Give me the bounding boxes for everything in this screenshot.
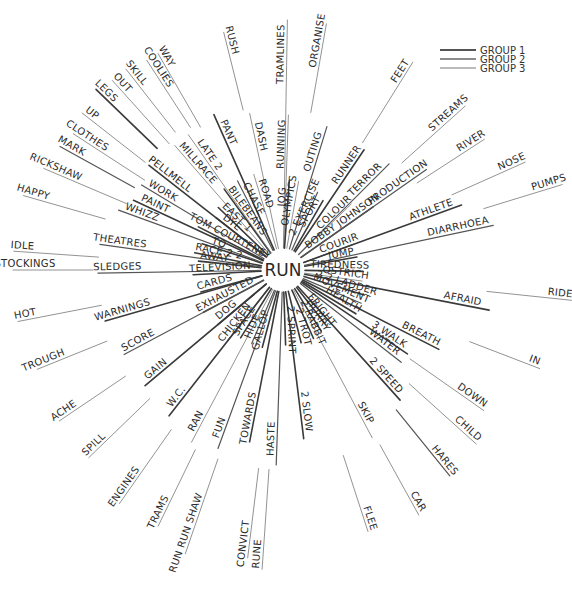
spoke-word: DASH <box>253 121 270 152</box>
spoke-word: DIARRHOEA <box>426 214 490 238</box>
spoke-line <box>343 456 368 532</box>
spoke-line <box>410 359 484 411</box>
spoke-word: STOCKINGS <box>0 258 56 269</box>
spoke-word: ENGINES <box>106 464 142 509</box>
spoke-word: FLEE <box>361 504 379 531</box>
spoke-word: RUN RUN SHAW <box>167 491 205 574</box>
spoke-line <box>396 410 450 476</box>
spoke-word: FEET <box>388 57 411 85</box>
spoke-line <box>44 168 127 203</box>
spoke-word: RUSH <box>224 24 242 55</box>
spoke-word: HASTE <box>265 421 277 456</box>
spoke-line <box>452 162 525 195</box>
spoke-word: SLEDGES <box>93 260 142 272</box>
spoke-word: UP <box>84 104 102 121</box>
center-word: RUN <box>265 260 302 280</box>
legend-label-group-3: GROUP 3 <box>480 63 525 74</box>
spoke-line <box>24 196 106 219</box>
spoke-word: WARNINGS <box>93 296 151 322</box>
word-association-diagram: TRAMLINESRUNNINGORGANISEOUTINGJOGOLYMPIC… <box>0 0 572 597</box>
spoke-line <box>380 445 419 515</box>
spoke-word: DOWN <box>455 381 489 410</box>
spoke-word: ACHE <box>48 398 78 423</box>
spoke-line <box>89 399 150 458</box>
spoke-word: PUMPS <box>530 171 568 192</box>
legend: GROUP 1 GROUP 2 GROUP 3 <box>440 45 525 74</box>
spoke-word: RIDE <box>547 286 572 300</box>
spoke-word: RUNE <box>250 539 263 569</box>
spoke-line <box>470 342 540 369</box>
spokes-layer <box>13 20 571 569</box>
spoke-line <box>276 292 282 465</box>
spoke-line <box>120 430 172 504</box>
spoke-word: TRAMS <box>145 493 171 531</box>
spoke-word: HARES <box>430 443 461 477</box>
spoke-line <box>14 251 99 257</box>
spoke-word: 2 SPRINT <box>285 306 298 355</box>
spoke-word: FUN <box>210 415 228 439</box>
spoke-line <box>484 185 562 209</box>
spoke-word: CHILD <box>453 413 484 443</box>
spoke-line <box>363 62 413 143</box>
spoke-word: STREAMS <box>426 92 470 133</box>
spoke-word: IDLE <box>10 239 34 252</box>
spoke-word: CONVICT <box>235 519 252 568</box>
spoke-line <box>262 470 269 570</box>
spoke-line <box>284 292 286 345</box>
spoke-word: ATHLETE <box>407 196 454 222</box>
spoke-word: OUTING <box>301 130 324 173</box>
spoke-line <box>112 81 169 144</box>
radial-diagram-canvas: TRAMLINESRUNNINGORGANISEOUTINGJOGOLYMPIC… <box>0 0 572 597</box>
spoke-word: NOSE <box>496 150 527 172</box>
spoke-word: RUNNING <box>275 119 288 169</box>
spoke-word: ORGANISE <box>307 12 327 68</box>
spoke-line <box>417 139 484 183</box>
spoke-line <box>402 106 465 163</box>
spoke-word: RAN <box>185 409 205 433</box>
spoke-word: TRAMLINES <box>274 24 286 85</box>
